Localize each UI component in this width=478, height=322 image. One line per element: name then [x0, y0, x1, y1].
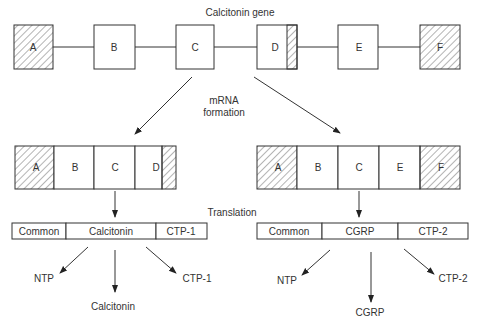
right-protein: Common CGRP CTP-2 [257, 223, 468, 239]
svg-text:CGRP: CGRP [346, 226, 375, 237]
right-product-ctp2: CTP-2 [439, 273, 468, 284]
right-product-cgrp: CGRP [356, 307, 385, 318]
gene-exon-f: F [420, 25, 460, 69]
svg-text:D: D [271, 42, 278, 53]
mrna-label-line1: mRNA [209, 95, 239, 106]
right-product-ntp: NTP [277, 275, 297, 286]
svg-text:Calcitonin: Calcitonin [89, 226, 133, 237]
svg-text:A: A [30, 42, 37, 53]
svg-text:F: F [438, 162, 444, 173]
left-product-calcitonin: Calcitonin [91, 301, 135, 312]
svg-text:CTP-1: CTP-1 [167, 226, 196, 237]
svg-text:B: B [315, 162, 322, 173]
calcitonin-gene-diagram: Calcitonin gene A B C D E F mRNA formati… [0, 0, 478, 322]
arrow-left-ntp [60, 247, 88, 273]
left-protein: Common Calcitonin CTP-1 [12, 223, 207, 239]
svg-text:A: A [275, 162, 282, 173]
gene-exon-a: A [14, 25, 53, 69]
svg-text:CTP-2: CTP-2 [419, 226, 448, 237]
svg-text:E: E [356, 42, 363, 53]
svg-text:B: B [111, 42, 118, 53]
arrow-to-left-mrna [135, 77, 192, 134]
gene-exon-e: E [338, 25, 378, 69]
translation-label: Translation [207, 207, 256, 218]
arrow-right-ctp2 [404, 249, 434, 274]
svg-text:C: C [355, 162, 362, 173]
arrow-to-right-mrna [254, 77, 340, 133]
svg-text:C: C [111, 162, 118, 173]
svg-text:C: C [191, 42, 198, 53]
svg-text:D: D [152, 162, 159, 173]
arrow-left-ctp1 [146, 247, 176, 273]
svg-text:Common: Common [19, 226, 60, 237]
left-product-ctp1: CTP-1 [183, 273, 212, 284]
svg-text:E: E [397, 162, 404, 173]
svg-text:A: A [33, 162, 40, 173]
svg-text:B: B [72, 162, 79, 173]
gene-exon-d: D [257, 25, 297, 69]
svg-text:F: F [437, 42, 443, 53]
left-mrna: A B C D [15, 146, 176, 189]
svg-text:Common: Common [269, 226, 310, 237]
right-mrna: A B C E F [257, 146, 460, 189]
arrow-right-ntp [302, 250, 330, 275]
left-product-ntp: NTP [34, 273, 54, 284]
mrna-label-line2: formation [203, 107, 245, 118]
gene-exon-b: B [94, 25, 135, 69]
gene-exon-c: C [176, 25, 214, 69]
gene-title: Calcitonin gene [206, 7, 275, 18]
